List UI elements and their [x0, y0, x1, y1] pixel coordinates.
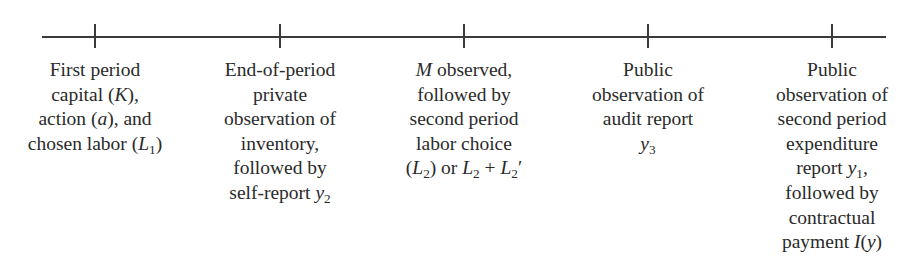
label-line: M observed,: [369, 58, 559, 83]
label-line: report y1,: [737, 156, 915, 181]
label-line: audit report: [553, 107, 743, 132]
tick-mark-4: [647, 24, 649, 48]
tick-mark-5: [831, 24, 833, 48]
label-line: self-report y2: [185, 181, 375, 206]
label-line: action (a), and: [0, 107, 190, 132]
label-line: chosen labor (L1): [0, 132, 190, 157]
label-line: observation of: [737, 83, 915, 108]
label-line: payment I(y): [737, 230, 915, 255]
label-line: y3: [553, 132, 743, 157]
label-line: First period: [0, 58, 190, 83]
event-label-expenditure-report: Public observation of second period expe…: [737, 58, 915, 255]
label-line: second period: [369, 107, 559, 132]
label-line: second period: [737, 107, 915, 132]
label-line: contractual: [737, 206, 915, 231]
label-line: private: [185, 83, 375, 108]
label-line: observation of: [553, 83, 743, 108]
label-line: labor choice: [369, 132, 559, 157]
event-label-first-period: First period capital (K), action (a), an…: [0, 58, 190, 156]
label-line: observation of: [185, 107, 375, 132]
label-line: Public: [737, 58, 915, 83]
label-line: followed by: [369, 83, 559, 108]
tick-mark-1: [94, 24, 96, 48]
label-line: followed by: [185, 156, 375, 181]
label-line: Public: [553, 58, 743, 83]
label-line: (L2) or L2 + L2′: [369, 156, 559, 181]
tick-mark-2: [279, 24, 281, 48]
event-label-audit-report: Public observation of audit report y3: [553, 58, 743, 156]
label-line: End-of-period: [185, 58, 375, 83]
label-line: capital (K),: [0, 83, 190, 108]
event-label-m-observed: M observed, followed by second period la…: [369, 58, 559, 181]
label-line: inventory,: [185, 132, 375, 157]
label-line: followed by: [737, 181, 915, 206]
label-line: expenditure: [737, 132, 915, 157]
tick-mark-3: [463, 24, 465, 48]
event-label-end-of-period: End-of-period private observation of inv…: [185, 58, 375, 206]
